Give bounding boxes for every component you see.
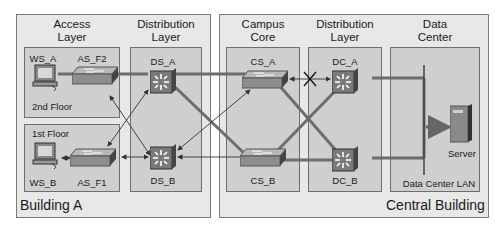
multilayer-switch-icon[interactable] — [332, 68, 360, 94]
floor-2-label: 2nd Floor — [32, 101, 72, 112]
server-icon[interactable] — [450, 104, 474, 144]
access-switch-icon[interactable] — [70, 148, 116, 168]
multilayer-switch-icon[interactable] — [150, 68, 178, 94]
as-f1-label: AS_F1 — [74, 177, 110, 188]
access-switch-icon[interactable] — [72, 66, 118, 86]
core-switch-icon[interactable] — [240, 148, 286, 168]
standby-links — [62, 79, 330, 158]
multilayer-switch-icon[interactable] — [332, 146, 360, 172]
central-building-label: Central Building — [386, 197, 485, 213]
ds-a-label: DS_A — [148, 56, 178, 67]
multilayer-switch-icon[interactable] — [150, 144, 178, 170]
core-switch-icon[interactable] — [242, 70, 288, 90]
ds-b-label: DS_B — [148, 175, 178, 186]
data-center-lan-label: Data Center LAN — [398, 178, 480, 189]
cs-a-label: CS_A — [248, 56, 278, 67]
workstation-icon[interactable] — [32, 142, 60, 170]
ws-b-label: WS_B — [28, 177, 58, 188]
ws-a-label: WS_A — [28, 53, 58, 64]
workstation-icon[interactable] — [32, 64, 60, 92]
floor-1-label: 1st Floor — [32, 128, 69, 139]
cs-b-label: CS_B — [248, 175, 278, 186]
server-label: Server — [446, 148, 478, 159]
dc-a-label: DC_A — [330, 56, 360, 67]
as-f2-label: AS_F2 — [74, 53, 110, 64]
building-a-label: Building A — [20, 197, 82, 213]
dc-b-label: DC_B — [330, 175, 360, 186]
